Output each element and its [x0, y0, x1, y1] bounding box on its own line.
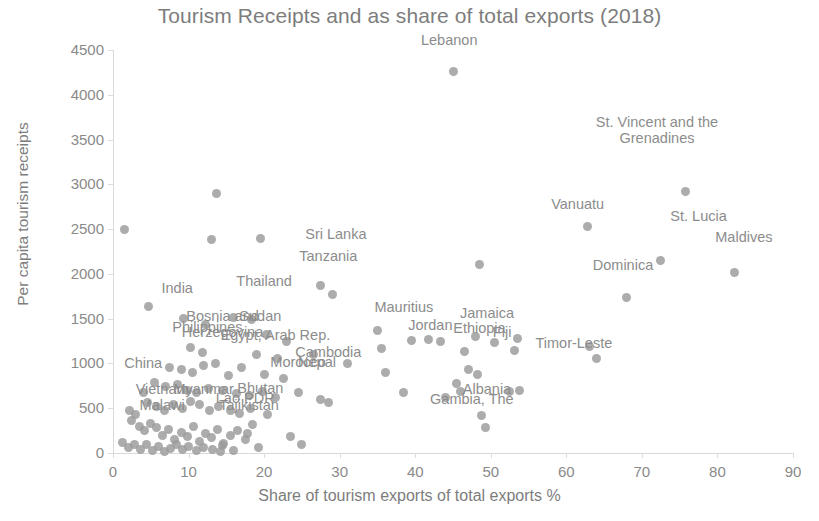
data-point	[263, 410, 272, 419]
data-point	[188, 368, 197, 377]
data-point-label: India	[161, 281, 192, 297]
data-point	[233, 426, 242, 435]
data-point-label: China	[124, 356, 162, 372]
x-tick-label: 30	[320, 464, 360, 479]
data-point-label: Sri Lanka	[305, 227, 366, 243]
data-point	[505, 387, 514, 396]
data-point	[189, 422, 198, 431]
data-point	[186, 397, 195, 406]
x-tick-mark	[189, 453, 190, 458]
data-point	[212, 189, 221, 198]
data-point-label: Jordan	[408, 318, 452, 334]
data-point	[173, 380, 182, 389]
data-point	[481, 423, 490, 432]
y-tick-label: 0	[49, 445, 104, 460]
data-point	[192, 388, 201, 397]
data-point	[211, 359, 220, 368]
x-tick-mark	[566, 453, 567, 458]
data-point	[513, 334, 522, 343]
data-point	[583, 222, 592, 231]
x-tick-label: 50	[471, 464, 511, 479]
x-axis-title: Share of tourism exports of total export…	[0, 487, 819, 505]
data-point	[309, 350, 318, 359]
data-point-label: St. Lucia	[670, 209, 726, 225]
data-point	[139, 388, 148, 397]
x-tick-mark	[113, 453, 114, 458]
data-point-label: Thailand	[236, 274, 292, 290]
y-tick-label: 3500	[49, 132, 104, 147]
data-point	[183, 432, 192, 441]
data-point	[213, 425, 222, 434]
y-axis-title: Per capita tourism receipts	[14, 84, 32, 344]
data-point	[198, 348, 207, 357]
data-point	[178, 404, 187, 413]
data-point	[475, 260, 484, 269]
data-point	[297, 440, 306, 449]
x-tick-label: 20	[244, 464, 284, 479]
data-point	[177, 365, 186, 374]
data-point	[730, 268, 739, 277]
data-point	[441, 393, 450, 402]
data-point	[232, 389, 241, 398]
data-point	[143, 398, 152, 407]
data-point	[464, 365, 473, 374]
data-point	[199, 443, 208, 452]
data-point	[243, 429, 252, 438]
data-point	[622, 293, 631, 302]
data-point	[254, 443, 263, 452]
y-tick-label: 3000	[49, 176, 104, 191]
data-point	[144, 302, 153, 311]
data-point	[424, 335, 433, 344]
data-point	[399, 388, 408, 397]
data-point	[377, 344, 386, 353]
data-point	[183, 386, 192, 395]
data-point	[294, 388, 303, 397]
data-point	[515, 386, 524, 395]
data-point	[656, 256, 665, 265]
data-point	[252, 350, 261, 359]
data-point	[273, 354, 282, 363]
x-tick-mark	[340, 453, 341, 458]
x-tick-label: 40	[395, 464, 435, 479]
y-tick-label: 500	[49, 400, 104, 415]
x-tick-label: 80	[697, 464, 737, 479]
data-point	[258, 387, 267, 396]
data-point-label: Albania	[463, 382, 511, 398]
data-point-label: Cambodia	[295, 345, 361, 361]
data-point	[473, 370, 482, 379]
x-tick-mark	[642, 453, 643, 458]
x-tick-label: 60	[546, 464, 586, 479]
data-point-label: Jamaica	[460, 306, 514, 322]
data-point-label: Egypt, Arab Rep.	[221, 328, 331, 344]
data-point-label: Tanzania	[299, 249, 357, 265]
data-point	[120, 225, 129, 234]
data-point-label: Mauritius	[374, 300, 433, 316]
data-point	[246, 404, 255, 413]
data-point	[160, 406, 169, 415]
data-point	[186, 343, 195, 352]
data-point	[224, 371, 233, 380]
data-point	[279, 374, 288, 383]
data-point	[125, 406, 134, 415]
data-point	[490, 338, 499, 347]
data-point	[207, 433, 216, 442]
x-tick-mark	[264, 453, 265, 458]
data-point	[681, 187, 690, 196]
data-point	[282, 337, 291, 346]
x-tick-mark	[491, 453, 492, 458]
x-tick-label: 0	[93, 464, 133, 479]
data-point	[449, 67, 458, 76]
data-point	[165, 363, 174, 372]
x-tick-mark	[793, 453, 794, 458]
data-point-label: Bosnia andHerzegovina	[182, 308, 263, 340]
chart-title: Tourism Receipts and as share of total e…	[0, 4, 819, 28]
data-point	[286, 432, 295, 441]
data-point	[195, 400, 204, 409]
data-point	[262, 330, 271, 339]
data-point	[201, 320, 210, 329]
data-point	[199, 361, 208, 370]
data-point	[373, 326, 382, 335]
data-point	[161, 382, 170, 391]
y-tick-label: 2000	[49, 266, 104, 281]
data-point	[207, 235, 216, 244]
